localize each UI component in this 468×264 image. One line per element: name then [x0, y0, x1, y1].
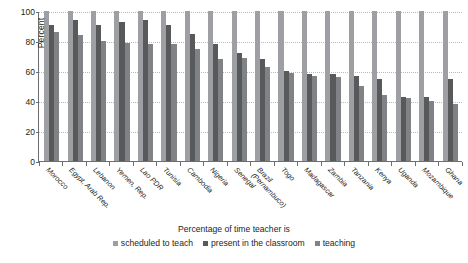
legend-item: present in the classroom: [203, 238, 305, 248]
plot-area: 020406080100 Percent: [38, 12, 462, 162]
bar: [312, 76, 317, 162]
legend-label: present in the classroom: [211, 238, 305, 248]
x-label-cell: Togo: [274, 166, 298, 218]
x-tick-label: Ghana: [444, 166, 465, 187]
bar-group: [63, 12, 86, 161]
x-label-cell: Nigeria: [204, 166, 228, 218]
bar: [453, 104, 458, 161]
y-tick-label: 60: [26, 67, 35, 77]
bar: [242, 58, 247, 162]
x-tick-label-line: Ghana: [444, 165, 466, 187]
bar-group: [415, 12, 438, 161]
bar: [54, 32, 59, 161]
chart-caption: Percentage of time teacher is: [0, 224, 468, 234]
bar: [218, 59, 223, 161]
legend-swatch-icon: [203, 241, 208, 246]
bar-group: [392, 12, 415, 161]
bar-group: [87, 12, 110, 161]
x-label-cell: Tanzania: [345, 166, 369, 218]
bar-group: [204, 12, 227, 161]
bar-group: [251, 12, 274, 161]
axes: 020406080100: [38, 12, 462, 162]
y-tick-mark: [36, 72, 39, 73]
legend-label: scheduled to teach: [121, 238, 193, 248]
legend-swatch-icon: [113, 241, 118, 246]
bar-group: [157, 12, 180, 161]
chart-figure: 020406080100 Percent MoroccoEgypt, Arab …: [0, 0, 468, 264]
legend-item: teaching: [315, 238, 356, 248]
bar: [125, 43, 130, 162]
y-tick-mark: [36, 132, 39, 133]
legend-item: scheduled to teach: [113, 238, 193, 248]
y-tick-label: 40: [26, 97, 35, 107]
bar-groups: [40, 12, 462, 161]
x-tick-label: Togo: [279, 166, 296, 183]
bar: [336, 77, 341, 161]
bar-group: [321, 12, 344, 161]
x-label-cell: Mozambique: [415, 166, 439, 218]
bar-group: [110, 12, 133, 161]
x-label-cell: Yemen, Rep.: [110, 166, 134, 218]
x-label-cell: Tunisia: [157, 166, 181, 218]
bar: [429, 101, 434, 161]
x-label-cell: Brazil(Pernambuco): [251, 166, 275, 218]
x-tick-label: Kenya: [373, 166, 393, 186]
x-label-cell: Zambia: [321, 166, 345, 218]
legend-swatch-icon: [315, 241, 320, 246]
x-label-cell: Morocco: [39, 166, 63, 218]
bar-group: [134, 12, 157, 161]
bar: [382, 95, 387, 161]
bar: [171, 44, 176, 161]
chart-legend: scheduled to teachpresent in the classro…: [0, 238, 468, 248]
bar-group: [368, 12, 391, 161]
bar-group: [181, 12, 204, 161]
x-label-cell: Madagascar: [298, 166, 322, 218]
legend-label: teaching: [323, 238, 356, 248]
bar: [265, 67, 270, 162]
x-label-cell: Kenya: [368, 166, 392, 218]
y-tick-label: 100: [21, 7, 35, 17]
x-tick-label-line: Togo: [279, 165, 296, 182]
x-label-cell: Egypt, Arab Rep.: [63, 166, 87, 218]
x-label-cell: Lao PDR: [133, 166, 157, 218]
y-tick-label: 0: [30, 157, 35, 167]
bar-group: [345, 12, 368, 161]
x-label-cell: Ghana: [439, 166, 463, 218]
bar: [101, 41, 106, 161]
bar: [195, 49, 200, 162]
x-label-cell: Senegal: [227, 166, 251, 218]
y-axis-label: Percent: [36, 0, 46, 68]
bar-group: [438, 12, 461, 161]
y-tick-label: 20: [26, 127, 35, 137]
bar: [148, 44, 153, 161]
bar: [78, 35, 83, 161]
x-label-cell: Lebanon: [86, 166, 110, 218]
bar-group: [228, 12, 251, 161]
bar: [359, 86, 364, 161]
y-tick-mark: [36, 102, 39, 103]
bar: [406, 98, 411, 161]
y-tick-label: 80: [26, 37, 35, 47]
x-label-cell: Uganda: [392, 166, 416, 218]
bar-group: [274, 12, 297, 161]
bar-group: [298, 12, 321, 161]
x-axis-labels: MoroccoEgypt, Arab Rep.LebanonYemen, Rep…: [39, 166, 462, 218]
x-label-cell: Cambodia: [180, 166, 204, 218]
bar: [289, 73, 294, 162]
